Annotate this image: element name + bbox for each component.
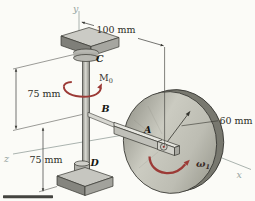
vertical-shaft [83,49,90,171]
disk-radius-dimension: 60 mm [220,115,253,126]
point-b-label: B [101,103,110,114]
axle-center-point [163,146,165,148]
moment-symbol: M [99,72,109,83]
hub-block-right-face [175,146,180,156]
offset-dimension: 100 mm [96,24,135,35]
omega-symbol: ω [196,158,206,169]
z-axis-label: z [3,153,10,164]
shaft-disk-diagram: y z 75 mm 75 mm M0 [0,0,255,201]
omega-subscript: 1 [206,163,211,171]
point-a-label: A [143,124,151,135]
point-d-label: D [90,157,100,168]
upper-shaft-dimension: 75 mm [27,88,60,99]
point-c-label: C [96,53,104,64]
bearing-d-top [75,161,90,166]
moment-subscript: 0 [109,77,113,85]
caption-crop-artifact [3,195,53,198]
bearing-c-flange-bottom [74,55,99,62]
x-axis-label: x [237,169,243,180]
mechanics-figure: y z 75 mm 75 mm M0 [0,0,255,201]
y-axis-label: y [72,3,79,14]
lower-shaft-dimension: 75 mm [29,154,62,165]
